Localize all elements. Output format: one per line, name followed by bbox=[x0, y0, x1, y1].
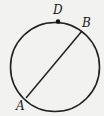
chord-ab bbox=[26, 31, 82, 98]
label-d: D bbox=[52, 3, 63, 17]
label-a: A bbox=[15, 99, 25, 113]
circle-diagram: D B A bbox=[0, 0, 104, 116]
point-d-dot bbox=[56, 19, 60, 23]
label-b: B bbox=[81, 16, 91, 30]
